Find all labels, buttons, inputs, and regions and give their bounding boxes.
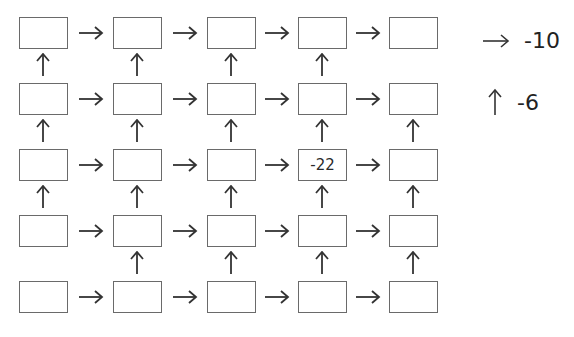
- grid-cell-r4-c4[interactable]: [298, 215, 347, 247]
- right-arrow-icon: [264, 158, 290, 172]
- up-arrow-icon: [130, 251, 144, 275]
- up-arrow-icon: [130, 53, 144, 77]
- up-arrow-icon: [130, 185, 144, 209]
- grid-cell-r5-c3[interactable]: [207, 281, 256, 313]
- grid-cell-r1-c4[interactable]: [298, 17, 347, 49]
- right-arrow-icon: [264, 26, 290, 40]
- grid-cell-r2-c4[interactable]: [298, 83, 347, 115]
- grid-cell-r3-c1[interactable]: [19, 149, 68, 181]
- legend-up-arrow: -6: [487, 88, 539, 116]
- right-arrow-icon: [355, 290, 381, 304]
- right-arrow-icon: [172, 92, 198, 106]
- grid-cell-r2-c1[interactable]: [19, 83, 68, 115]
- legend-right-arrow: -10: [482, 28, 560, 53]
- grid-cell-r4-c1[interactable]: [19, 215, 68, 247]
- grid-cell-r2-c3[interactable]: [207, 83, 256, 115]
- right-arrow-icon: [172, 158, 198, 172]
- right-arrow-icon: [355, 224, 381, 238]
- up-arrow-icon: [315, 251, 329, 275]
- right-arrow-icon: [78, 224, 104, 238]
- up-arrow-icon: [224, 119, 238, 143]
- grid-cell-r3-c3[interactable]: [207, 149, 256, 181]
- right-arrow-icon: [355, 158, 381, 172]
- right-arrow-icon: [264, 224, 290, 238]
- up-arrow-icon: [406, 251, 420, 275]
- up-arrow-icon: [224, 185, 238, 209]
- up-arrow-icon: [36, 185, 50, 209]
- grid-cell-r5-c5[interactable]: [389, 281, 438, 313]
- right-arrow-icon: [172, 26, 198, 40]
- up-arrow-icon: [36, 119, 50, 143]
- right-arrow-icon: [78, 26, 104, 40]
- right-arrow-icon: [355, 92, 381, 106]
- grid-cell-r2-c5[interactable]: [389, 83, 438, 115]
- grid-cell-r1-c1[interactable]: [19, 17, 68, 49]
- up-arrow-icon: [315, 185, 329, 209]
- legend-right-value: -10: [524, 28, 560, 53]
- up-arrow-icon: [224, 251, 238, 275]
- grid-cell-r4-c2[interactable]: [113, 215, 162, 247]
- up-arrow-icon: [487, 88, 503, 116]
- grid-cell-r5-c1[interactable]: [19, 281, 68, 313]
- up-arrow-icon: [315, 119, 329, 143]
- up-arrow-icon: [315, 53, 329, 77]
- grid-cell-r4-c5[interactable]: [389, 215, 438, 247]
- right-arrow-icon: [264, 290, 290, 304]
- grid-cell-r3-c4[interactable]: -22: [298, 149, 347, 181]
- right-arrow-icon: [264, 92, 290, 106]
- legend-up-value: -6: [517, 90, 539, 115]
- right-arrow-icon: [78, 290, 104, 304]
- grid-cell-r1-c5[interactable]: [389, 17, 438, 49]
- grid-cell-r5-c4[interactable]: [298, 281, 347, 313]
- up-arrow-icon: [130, 119, 144, 143]
- up-arrow-icon: [224, 53, 238, 77]
- right-arrow-icon: [78, 92, 104, 106]
- grid-cell-r1-c2[interactable]: [113, 17, 162, 49]
- grid-cell-r3-c5[interactable]: [389, 149, 438, 181]
- up-arrow-icon: [406, 119, 420, 143]
- grid-cell-r3-c2[interactable]: [113, 149, 162, 181]
- grid-cell-r1-c3[interactable]: [207, 17, 256, 49]
- right-arrow-icon: [78, 158, 104, 172]
- up-arrow-icon: [406, 185, 420, 209]
- up-arrow-icon: [36, 53, 50, 77]
- right-arrow-icon: [355, 26, 381, 40]
- right-arrow-icon: [172, 224, 198, 238]
- grid-cell-r4-c3[interactable]: [207, 215, 256, 247]
- grid-cell-r2-c2[interactable]: [113, 83, 162, 115]
- grid-cell-r5-c2[interactable]: [113, 281, 162, 313]
- right-arrow-icon: [172, 290, 198, 304]
- right-arrow-icon: [482, 33, 510, 49]
